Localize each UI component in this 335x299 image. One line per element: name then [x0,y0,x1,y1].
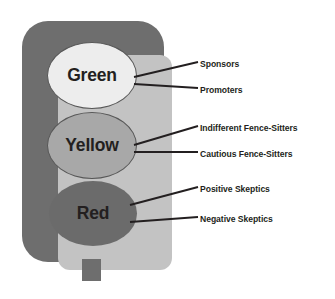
callout-promoters: Promoters [200,86,243,95]
callout-positive-skeptics: Positive Skeptics [200,185,270,194]
callout-cautious-fence-sitters: Cautious Fence-Sitters [200,150,293,159]
lamp-green: Green [47,42,137,109]
callout-indifferent-fence-sitters: Indifferent Fence-Sitters [200,124,298,133]
lamp-yellow: Yellow [47,112,137,179]
callout-negative-skeptics: Negative Skeptics [200,215,273,224]
traffic-light-diagram: Green Yellow Red Sponsors Promoters Indi… [0,0,335,299]
callout-sponsors: Sponsors [200,60,239,69]
traffic-light-stem [82,259,101,281]
lamp-yellow-label: Yellow [65,135,118,156]
lamp-red-label: Red [77,203,109,224]
lamp-green-label: Green [67,65,117,86]
lamp-red: Red [49,181,137,246]
